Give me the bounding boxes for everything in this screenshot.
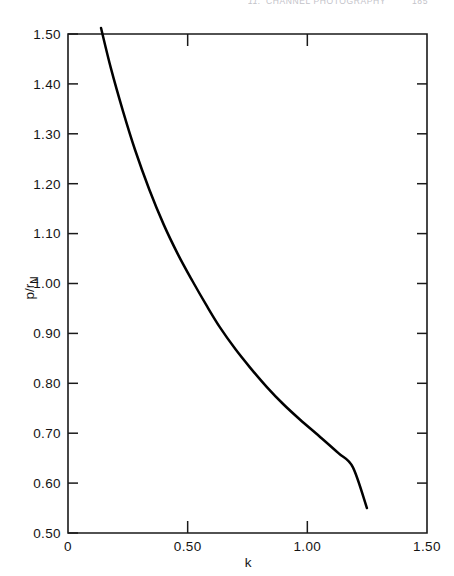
x-axis-title-label: k: [245, 555, 252, 570]
y-tick-label: 1.40: [33, 77, 61, 92]
x-tick-label: 0.50: [174, 539, 202, 554]
y-tick-label: 0.90: [33, 326, 61, 341]
chart-figure: 0.500.600.700.800.901.001.101.201.301.40…: [0, 0, 454, 576]
x-tick-label: 0: [64, 539, 72, 554]
y-tick-label: 1.30: [33, 127, 61, 142]
chart-svg: 0.500.600.700.800.901.001.101.201.301.40…: [0, 0, 454, 576]
y-tick-label: 0.70: [33, 426, 61, 441]
x-axis-ticks: [188, 34, 308, 533]
x-axis-tick-labels: 00.501.001.50: [64, 539, 441, 554]
y-tick-label: 1.20: [33, 177, 61, 192]
y-tick-label: 0.80: [33, 376, 61, 391]
x-tick-label: 1.50: [413, 539, 441, 554]
x-tick-label: 1.00: [293, 539, 321, 554]
data-series-group: [101, 28, 367, 508]
data-curve: [101, 28, 367, 508]
figure-page: 11.CHANNEL PHOTOGRAPHY185 0.500.600.700.…: [0, 0, 454, 576]
y-tick-label: 0.50: [33, 526, 61, 541]
y-tick-label: 1.10: [33, 226, 61, 241]
y-tick-label: 0.60: [33, 476, 61, 491]
y-tick-label: 1.50: [33, 27, 61, 42]
